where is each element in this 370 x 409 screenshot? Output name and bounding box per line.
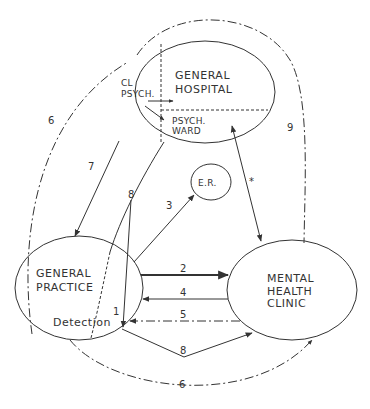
care-pathway-diagram: GENERAL HOSPITAL CL PSYCH. PSYCH. WARD E… <box>0 0 370 409</box>
edge-9-label: 9 <box>287 122 293 133</box>
edge-8-bottom <box>122 329 252 357</box>
edge-8-top-label: 8 <box>128 189 134 200</box>
psych-ward-label-2: WARD <box>172 126 201 136</box>
cl-psych-label-2: PSYCH. <box>121 89 155 99</box>
edge-1-label: 1 <box>113 306 119 317</box>
edge-8-bottom-label: 8 <box>180 345 186 356</box>
general-hospital-label-1: GENERAL <box>175 69 230 82</box>
edge-9 <box>137 20 305 243</box>
detection-label: Detection <box>53 316 111 329</box>
edge-6-bottom <box>70 340 312 385</box>
general-practice-label-1: GENERAL <box>36 267 91 280</box>
edge-2-label: 2 <box>180 263 186 274</box>
cl-psych-label-1: CL <box>121 78 133 88</box>
psych-ward-label-1: PSYCH. <box>172 116 206 126</box>
edge-7 <box>75 141 119 236</box>
general-hospital-label-2: HOSPITAL <box>175 83 233 96</box>
er-label: E.R. <box>198 178 217 188</box>
edge-4-label: 4 <box>180 287 186 298</box>
mhc-label-3: CLINIC <box>267 297 306 310</box>
mhc-label-1: MENTAL <box>267 272 315 285</box>
edge-star <box>232 126 261 241</box>
cl-to-ward-arrow <box>145 106 164 120</box>
edge-7-label: 7 <box>88 161 94 172</box>
edge-5-label: 5 <box>180 309 186 320</box>
edge-3-label: 3 <box>166 200 172 211</box>
edge-6-bottom-label: 6 <box>179 379 185 390</box>
edge-8-top-down <box>123 200 131 327</box>
edge-8-top-curve <box>110 142 164 252</box>
edge-3 <box>134 195 194 262</box>
edge-star-label: * <box>249 176 254 187</box>
general-practice-label-2: PRACTICE <box>36 281 93 294</box>
edge-6-top-label: 6 <box>48 115 54 126</box>
